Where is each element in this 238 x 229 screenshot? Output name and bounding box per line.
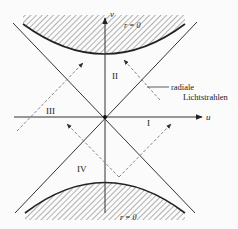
- lower-r0-label: r = 0: [120, 213, 137, 222]
- annotation-radiale: radiale: [171, 82, 194, 92]
- light-ray-region-III: [17, 63, 83, 131]
- region-II-label: II: [112, 71, 118, 81]
- upper-r0-label: r = 0: [124, 21, 141, 30]
- region-III-label: III: [46, 106, 55, 116]
- light-ray-region-IV-right: [119, 124, 171, 177]
- region-I-label: I: [147, 118, 150, 128]
- region-IV-label: IV: [77, 164, 87, 174]
- kruskal-diagram: v u r = 0 r = 0 II III I IV radiale Lich…: [0, 0, 238, 229]
- u-axis-label: u: [206, 112, 211, 122]
- annotation-lichtstrahlen: Lichtstrahlen: [183, 92, 229, 102]
- origin-dot: [103, 115, 107, 119]
- v-axis-label: v: [110, 9, 114, 19]
